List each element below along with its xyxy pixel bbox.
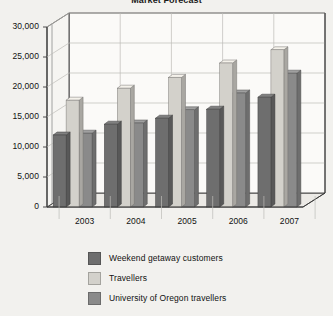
legend-label: Weekend getaway customers	[109, 253, 223, 263]
legend-item[interactable]: Travellers	[88, 269, 318, 287]
x-axis-tick-label: 2005	[162, 216, 212, 226]
legend-label: Travellers	[109, 273, 147, 283]
bar	[207, 106, 224, 207]
bar	[258, 94, 275, 207]
y-axis-tick-label: 30,000	[0, 21, 39, 31]
x-axis-tick-label: 2003	[60, 216, 110, 226]
y-axis-tick-label: 20,000	[0, 81, 39, 91]
x-axis-tick-label: 2007	[265, 216, 315, 226]
y-axis-tick-label: 0	[0, 201, 39, 211]
legend-item[interactable]: University of Oregon travellers	[88, 289, 318, 307]
y-axis-tick-label: 15,000	[0, 111, 39, 121]
plot-svg	[0, 0, 333, 240]
market-forecast-chart: Market Forecast 05,00010,00015,00020,000…	[0, 0, 333, 316]
legend-swatch	[88, 252, 101, 265]
bar	[104, 121, 121, 207]
y-axis-tick-label: 10,000	[0, 141, 39, 151]
bar	[156, 115, 173, 207]
x-axis-tick-label: 2006	[213, 216, 263, 226]
plot-area: 05,00010,00015,00020,00025,00030,000 200…	[0, 0, 333, 240]
y-axis-tick-label: 25,000	[0, 51, 39, 61]
legend-item[interactable]: Weekend getaway customers	[88, 249, 318, 267]
bar	[53, 132, 70, 207]
y-axis-tick-label: 5,000	[0, 171, 39, 181]
legend-label: University of Oregon travellers	[109, 293, 226, 303]
chart-legend: Weekend getaway customersTravellersUnive…	[88, 249, 318, 309]
x-axis-tick-label: 2004	[111, 216, 161, 226]
legend-swatch	[88, 272, 101, 285]
legend-swatch	[88, 292, 101, 305]
